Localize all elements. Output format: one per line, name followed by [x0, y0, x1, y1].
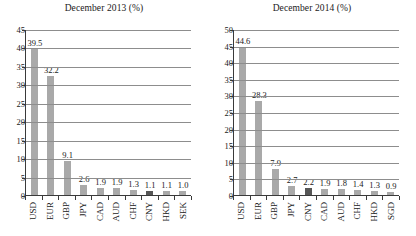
- bar-chf[interactable]: [130, 190, 137, 195]
- y-axis-right: 50454035302520151050: [208, 30, 233, 197]
- bar-sek[interactable]: [179, 191, 186, 195]
- x-tick-label-sek: SEK: [178, 202, 187, 219]
- bar-aud[interactable]: [338, 189, 345, 195]
- bar-slot: 1.9: [109, 30, 126, 195]
- bar-value-label: 1.1: [145, 181, 156, 190]
- chart-panel-december-2014: December 2014 (%) 50454035302520151050 4…: [208, 0, 416, 236]
- x-label-slot: CAD: [316, 200, 333, 236]
- bar-gbp[interactable]: [272, 169, 279, 195]
- gridline: [26, 104, 191, 105]
- x-label-slot: HKD: [158, 200, 175, 236]
- bar-value-label: 39.5: [27, 39, 42, 48]
- x-tick-mark: [366, 196, 367, 200]
- gridline: [234, 80, 399, 81]
- bar-cad[interactable]: [321, 189, 328, 195]
- x-label-slot: CHF: [125, 200, 142, 236]
- x-tick-mark: [316, 196, 317, 200]
- chart-title-left: December 2013 (%): [0, 3, 208, 13]
- x-label-slot: JPY: [75, 200, 92, 236]
- y-axis-left: 454035302520151050: [0, 30, 25, 197]
- x-tick-mark: [382, 196, 383, 200]
- x-label-slot: GBP: [266, 200, 283, 236]
- plot-area-right: 44.628.37.92.72.21.91.81.41.30.9: [233, 30, 399, 196]
- bar-value-label: 1.9: [112, 178, 123, 187]
- gridline: [234, 130, 399, 131]
- x-tick-label-cad: CAD: [320, 202, 329, 221]
- bar-value-label: 1.0: [178, 181, 189, 190]
- x-tick-label-eur: EUR: [45, 202, 54, 220]
- x-tick-mark: [91, 196, 92, 200]
- x-tick-mark: [250, 196, 251, 200]
- bar-jpy[interactable]: [80, 185, 87, 195]
- bar-hkd[interactable]: [371, 191, 378, 195]
- gridline: [234, 179, 399, 180]
- x-tick-mark: [349, 196, 350, 200]
- x-tick-mark: [191, 196, 192, 200]
- gridline: [26, 178, 191, 179]
- x-tick-mark: [174, 196, 175, 200]
- bar-slot: 1.1: [158, 30, 175, 195]
- gridline: [234, 63, 399, 64]
- x-label-slot: EUR: [250, 200, 267, 236]
- x-label-slot: CHF: [349, 200, 366, 236]
- bar-slot: 1.3: [125, 30, 142, 195]
- bar-cny[interactable]: [146, 191, 153, 195]
- x-tick-label-gbp: GBP: [270, 202, 279, 220]
- x-tick-mark: [125, 196, 126, 200]
- x-tick-label-chf: CHF: [128, 202, 137, 220]
- x-tick-label-eur: EUR: [253, 202, 262, 220]
- bar-hkd[interactable]: [163, 191, 170, 195]
- bar-eur[interactable]: [255, 101, 262, 195]
- x-label-slot: USD: [233, 200, 250, 236]
- gridline: [26, 159, 191, 160]
- x-label-slot: EUR: [42, 200, 59, 236]
- bar-slot: 39.5: [26, 30, 43, 195]
- x-tick-label-cad: CAD: [95, 202, 104, 221]
- gridline: [26, 67, 191, 68]
- bar-value-label: 2.7: [287, 176, 298, 185]
- x-tick-label-aud: AUD: [336, 202, 345, 222]
- x-tick-label-hkd: HKD: [370, 202, 379, 222]
- x-tick-mark: [75, 196, 76, 200]
- x-tick-mark: [108, 196, 109, 200]
- x-tick-mark: [333, 196, 334, 200]
- x-tick-mark: [399, 196, 400, 200]
- x-tick-label-sgd: SGD: [386, 202, 395, 220]
- x-tick-mark: [42, 196, 43, 200]
- x-axis-labels-left: USDEURGBPJPYCADAUDCHFCNYHKDSEK: [25, 200, 191, 236]
- bar-value-label: 0.9: [386, 182, 397, 191]
- bar-value-label: 44.6: [235, 37, 250, 46]
- bar-slot: 1.0: [175, 30, 192, 195]
- gridline: [26, 141, 191, 142]
- x-label-slot: CNY: [299, 200, 316, 236]
- bar-cny[interactable]: [305, 188, 312, 195]
- gridline: [26, 85, 191, 86]
- x-tick-label-cny: CNY: [303, 202, 312, 221]
- gridline: [234, 30, 399, 31]
- bar-chf[interactable]: [354, 190, 361, 195]
- bar-cad[interactable]: [97, 188, 104, 195]
- x-tick-label-usd: USD: [237, 202, 246, 220]
- gridline: [234, 47, 399, 48]
- gridline: [26, 48, 191, 49]
- x-tick-mark: [233, 196, 234, 200]
- bar-jpy[interactable]: [288, 186, 295, 195]
- bar-value-label: 1.3: [128, 180, 139, 189]
- bar-slot: 1.1: [142, 30, 159, 195]
- gridline: [26, 122, 191, 123]
- x-tick-mark: [158, 196, 159, 200]
- x-tick-label-chf: CHF: [353, 202, 362, 220]
- x-tick-label-aud: AUD: [112, 202, 121, 222]
- gridline: [234, 96, 399, 97]
- bars-layer-left: 39.532.29.12.61.91.91.31.11.11.0: [26, 30, 191, 195]
- bar-slot: 1.9: [92, 30, 109, 195]
- x-tick-label-jpy: JPY: [287, 202, 296, 217]
- bar-sgd[interactable]: [387, 192, 394, 195]
- x-tick-mark: [58, 196, 59, 200]
- bar-usd[interactable]: [239, 47, 246, 195]
- bar-aud[interactable]: [113, 188, 120, 195]
- x-tick-label-gbp: GBP: [62, 202, 71, 220]
- x-label-slot: AUD: [333, 200, 350, 236]
- x-label-slot: SEK: [174, 200, 191, 236]
- chart-title-right: December 2014 (%): [208, 3, 416, 13]
